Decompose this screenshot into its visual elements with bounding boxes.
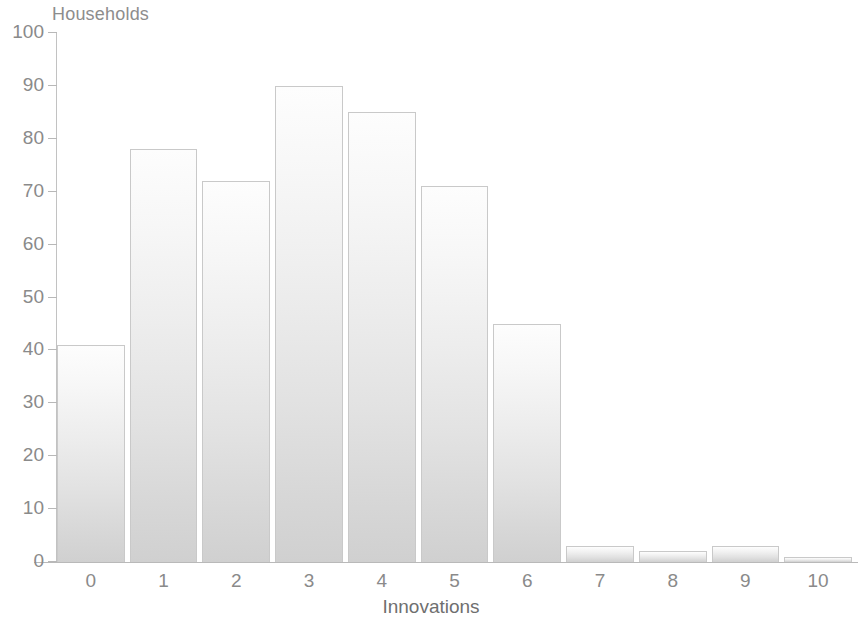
y-tick-label: 30: [0, 391, 44, 413]
x-tick-label: 5: [420, 570, 490, 592]
bar: [784, 557, 852, 562]
y-tick-label: 60: [0, 233, 44, 255]
y-tick-mark: [48, 561, 57, 562]
x-axis-title: Innovations: [0, 596, 862, 618]
y-tick-mark: [48, 402, 57, 403]
x-tick-label: 6: [492, 570, 562, 592]
x-tick-label: 3: [274, 570, 344, 592]
y-tick-mark: [48, 455, 57, 456]
y-axis-title: Households: [52, 4, 149, 25]
y-tick-mark: [48, 297, 57, 298]
y-tick-label: 40: [0, 338, 44, 360]
y-tick-mark: [48, 85, 57, 86]
y-tick-mark: [48, 32, 57, 33]
bar: [57, 345, 125, 562]
x-tick-label: 2: [201, 570, 271, 592]
plot-area: [57, 33, 857, 562]
x-tick-label: 8: [638, 570, 708, 592]
y-tick-label: 80: [0, 127, 44, 149]
bar: [348, 112, 416, 562]
y-tick-label: 0: [0, 550, 44, 572]
bar: [202, 181, 270, 562]
bar: [639, 551, 707, 562]
bar: [566, 546, 634, 562]
x-tick-label: 7: [565, 570, 635, 592]
x-tick-label: 0: [56, 570, 126, 592]
y-tick-label: 100: [0, 21, 44, 43]
x-tick-label: 4: [347, 570, 417, 592]
bar: [712, 546, 780, 562]
x-tick-label: 1: [129, 570, 199, 592]
y-tick-mark: [48, 244, 57, 245]
y-tick-mark: [48, 138, 57, 139]
bar-chart-figure: Households 0102030405060708090100 012345…: [0, 0, 862, 627]
bar: [130, 149, 198, 562]
y-tick-label: 20: [0, 444, 44, 466]
y-tick-mark: [48, 191, 57, 192]
y-tick-label: 70: [0, 180, 44, 202]
y-tick-label: 10: [0, 497, 44, 519]
y-tick-label: 50: [0, 286, 44, 308]
y-tick-mark: [48, 349, 57, 350]
bar: [275, 86, 343, 562]
x-axis-line: [34, 562, 858, 563]
y-tick-mark: [48, 508, 57, 509]
y-tick-label: 90: [0, 74, 44, 96]
x-tick-label: 10: [783, 570, 853, 592]
bar: [421, 186, 489, 562]
x-tick-label: 9: [710, 570, 780, 592]
bar: [493, 324, 561, 562]
